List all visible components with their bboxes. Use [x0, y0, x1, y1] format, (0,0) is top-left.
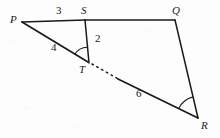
angle-arc-t: [75, 47, 88, 55]
vertex-label-s: S: [81, 5, 87, 16]
segment-tr-dashed-part: [92, 64, 120, 80]
length-label-ps: 3: [56, 5, 62, 16]
length-label-st: 2: [95, 33, 101, 44]
segment-st: [85, 20, 89, 63]
vertex-label-q: Q: [172, 5, 180, 16]
segment-qr: [175, 20, 198, 118]
vertex-label-t: T: [79, 64, 85, 75]
vertex-label-p: P: [10, 14, 17, 25]
angle-arc-r: [179, 97, 193, 109]
length-label-pt: 4: [51, 42, 57, 53]
geometry-figure: P S Q T R 3 4 2 6: [0, 0, 220, 138]
length-label-tr: 6: [136, 88, 142, 99]
vertex-label-r: R: [201, 120, 208, 131]
figure-canvas: [0, 0, 220, 138]
segment-tr: [118, 79, 198, 118]
segment-ps: [22, 20, 85, 22]
